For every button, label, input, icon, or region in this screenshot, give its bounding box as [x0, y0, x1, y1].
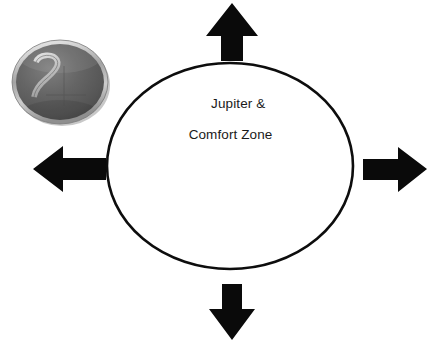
jupiter-medallion-graphic	[8, 38, 112, 126]
arrow-left-icon	[33, 146, 106, 192]
comfort-zone-ellipse	[107, 63, 353, 269]
diagram-canvas: Jupiter & Comfort Zone	[0, 0, 434, 343]
arrow-down-icon	[209, 284, 255, 340]
jupiter-medallion	[8, 38, 112, 126]
arrow-up-icon	[206, 3, 258, 61]
arrow-right-icon	[363, 147, 427, 192]
